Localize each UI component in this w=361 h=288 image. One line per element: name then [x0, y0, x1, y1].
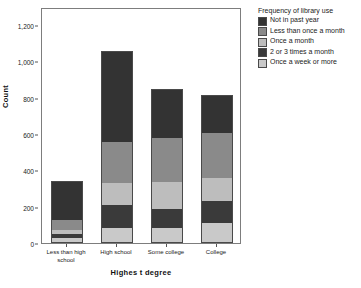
y-tick-mark: [35, 98, 38, 99]
x-tick-label: Less than high school: [38, 249, 94, 264]
bar-group[interactable]: [201, 95, 233, 243]
legend-item-label: Less than once a month: [270, 27, 345, 35]
bar-group[interactable]: [51, 181, 83, 243]
bar-segment[interactable]: [201, 178, 233, 202]
x-axis-tick-labels: Less than high schoolHigh schoolSome col…: [41, 246, 241, 270]
legend-swatch-icon: [258, 17, 267, 26]
x-tick-mark: [166, 244, 167, 247]
y-tick-label: 1,000: [18, 59, 34, 66]
bar-segment[interactable]: [201, 133, 233, 177]
x-tick-label: College: [188, 249, 244, 257]
bar-segment[interactable]: [51, 220, 83, 230]
x-tick-label: Some college: [138, 249, 194, 257]
y-tick-mark: [35, 171, 38, 172]
y-tick-mark: [35, 26, 38, 27]
bar-segment[interactable]: [151, 89, 183, 138]
legend-items: Not in past yearLess than once a monthOn…: [258, 16, 360, 68]
y-tick-label-zero: 0: [30, 241, 34, 248]
y-tick-mark: [35, 135, 38, 136]
legend-item[interactable]: Not in past year: [258, 16, 360, 26]
bar-segment[interactable]: [101, 183, 133, 205]
x-tick-mark: [216, 244, 217, 247]
x-tick-mark: [116, 244, 117, 247]
bar-segment[interactable]: [201, 223, 233, 243]
y-tick-label: 600: [23, 132, 34, 139]
bar-segment[interactable]: [201, 201, 233, 223]
bar-segment[interactable]: [151, 209, 183, 229]
bars-container: [42, 9, 240, 243]
bar-segment[interactable]: [101, 205, 133, 228]
plot-area: [41, 8, 241, 244]
legend-item[interactable]: 2 or 3 times a month: [258, 48, 360, 58]
bar-segment[interactable]: [151, 138, 183, 182]
y-tick-label: 1,200: [18, 23, 34, 30]
y-tick-mark: [35, 62, 38, 63]
bar-segment[interactable]: [151, 182, 183, 208]
legend-item[interactable]: Less than once a month: [258, 27, 360, 37]
bar-segment[interactable]: [101, 228, 133, 243]
legend-title: Frequency of library use: [258, 7, 360, 14]
y-tick-mark: [35, 244, 38, 245]
legend-item-label: Once a week or more: [270, 58, 337, 66]
legend-item[interactable]: Once a week or more: [258, 58, 360, 68]
legend-item-label: Once a month: [270, 37, 314, 45]
bar-segment[interactable]: [101, 142, 133, 183]
legend: Frequency of library use Not in past yea…: [258, 7, 360, 69]
bar-group[interactable]: [151, 89, 183, 243]
x-tick-mark: [66, 244, 67, 247]
bar-segment[interactable]: [151, 228, 183, 243]
legend-swatch-icon: [258, 48, 267, 57]
legend-item-label: Not in past year: [270, 16, 319, 24]
y-tick-label: 200: [23, 204, 34, 211]
bar-segment[interactable]: [201, 95, 233, 133]
legend-swatch-icon: [258, 38, 267, 47]
legend-item-label: 2 or 3 times a month: [270, 48, 334, 56]
legend-swatch-icon: [258, 59, 267, 68]
y-tick-mark: [35, 207, 38, 208]
x-tick-label: High school: [88, 249, 144, 257]
bar-segment[interactable]: [51, 181, 83, 220]
bar-segment[interactable]: [101, 51, 133, 143]
y-axis-tick-labels: 2004006008001,0001,2000: [8, 0, 38, 288]
y-tick-label: 400: [23, 168, 34, 175]
y-tick-label: 800: [23, 95, 34, 102]
bar-segment[interactable]: [51, 238, 83, 243]
bar-group[interactable]: [101, 51, 133, 243]
legend-item[interactable]: Once a month: [258, 37, 360, 47]
x-axis-title: Highes t degree: [41, 268, 241, 277]
legend-swatch-icon: [258, 27, 267, 36]
stacked-bar-chart: Count 2004006008001,0001,2000 Less than …: [0, 0, 361, 288]
